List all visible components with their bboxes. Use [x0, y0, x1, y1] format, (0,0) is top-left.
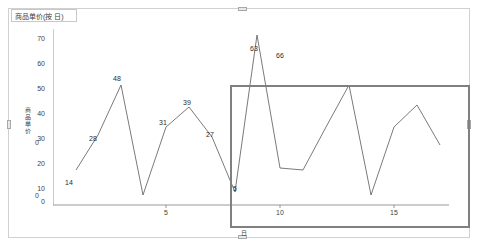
ytick-20: 20 — [29, 160, 45, 167]
xtick-5: 5 — [157, 209, 175, 216]
ytick-70: 70 — [29, 35, 45, 42]
chart-frame[interactable]: 商品单价(按 日) 0 0 商品单价 日 — [8, 8, 470, 238]
chart-screenshot: 商品单价(按 日) 0 0 商品单价 日 — [0, 0, 479, 252]
point-label-27: 27 — [206, 131, 214, 138]
resize-handle-top[interactable] — [238, 7, 247, 11]
ytick-10: 10 — [29, 185, 45, 192]
x-axis-label: 日 — [241, 228, 247, 237]
ytick-30: 30 — [29, 135, 45, 142]
ytick-50: 50 — [29, 85, 45, 92]
ytick-40: 40 — [29, 110, 45, 117]
point-label-48: 48 — [113, 75, 121, 82]
annotation-66: 66 — [276, 52, 284, 59]
chart-title: 商品单价(按 日) — [15, 11, 64, 21]
point-label-39: 39 — [183, 99, 191, 106]
point-label-31: 31 — [159, 119, 167, 126]
resize-handle-left[interactable] — [7, 120, 11, 129]
point-label-28: 28 — [89, 135, 97, 142]
ytick-60: 60 — [29, 60, 45, 67]
highlight-rectangle[interactable] — [230, 85, 470, 228]
annotation-63: 63 — [250, 45, 258, 52]
ytick-00: 0 — [29, 198, 45, 205]
point-label-14: 14 — [65, 179, 73, 186]
